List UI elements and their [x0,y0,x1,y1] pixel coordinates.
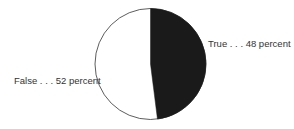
pie-chart [0,0,294,129]
slice-label-false: False . . . 52 percent [14,76,101,86]
pie-slice-true [151,9,206,120]
slice-label-true: True . . . 48 percent [208,39,291,49]
